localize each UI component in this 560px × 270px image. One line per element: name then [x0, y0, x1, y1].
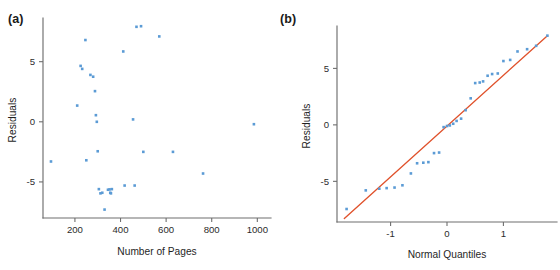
data-point	[401, 184, 404, 187]
data-point	[132, 118, 135, 121]
data-point	[449, 124, 452, 127]
data-point	[84, 39, 87, 42]
data-point	[433, 152, 436, 155]
data-point	[123, 184, 126, 187]
data-point	[378, 187, 381, 190]
data-point	[133, 184, 136, 187]
y-tick-label: 0	[30, 116, 35, 127]
data-point	[50, 160, 53, 163]
y-tick-label: 5	[324, 63, 329, 74]
panel-a: (a) 2004006008001000-505Number of PagesR…	[0, 0, 280, 270]
data-point	[478, 81, 481, 84]
data-point	[442, 126, 445, 129]
x-tick-label: 1	[501, 228, 506, 239]
data-point	[535, 45, 538, 48]
data-point	[469, 97, 472, 100]
data-point	[140, 25, 143, 28]
data-point	[491, 73, 494, 76]
figure-container: (a) 2004006008001000-505Number of PagesR…	[0, 0, 560, 270]
panel-b: (b) -101-505Normal QuantilesResiduals	[280, 0, 560, 270]
data-point	[122, 50, 125, 53]
data-point	[509, 59, 512, 62]
x-tick-label: 600	[158, 224, 174, 235]
data-point	[76, 104, 79, 107]
data-point	[96, 121, 99, 124]
panel-a-label: (a)	[8, 12, 24, 26]
x-tick-label: 0	[444, 228, 449, 239]
data-point	[385, 187, 388, 190]
panel-b-label: (b)	[280, 12, 296, 26]
x-axis-title: Number of Pages	[117, 246, 196, 257]
data-point	[438, 151, 441, 154]
y-tick-label: -5	[320, 176, 329, 187]
x-tick-label: 800	[204, 224, 220, 235]
data-point	[496, 72, 499, 75]
y-tick-label: 5	[30, 56, 35, 67]
data-point	[345, 208, 348, 211]
data-point	[103, 208, 106, 211]
data-point	[135, 26, 138, 29]
data-point	[108, 188, 111, 191]
y-tick-label: -5	[26, 176, 35, 187]
scatter-plot-a: 2004006008001000-505Number of PagesResid…	[0, 0, 280, 270]
data-point	[95, 114, 98, 117]
data-point	[81, 68, 84, 71]
data-point	[92, 75, 95, 78]
data-point	[158, 35, 161, 38]
x-axis-title: Normal Quantiles	[408, 249, 487, 260]
data-point	[455, 120, 458, 123]
data-point	[89, 74, 92, 77]
data-point	[502, 60, 505, 63]
data-point	[111, 188, 114, 191]
y-axis-title: Residuals	[7, 98, 18, 143]
data-point	[142, 151, 145, 154]
data-point	[98, 188, 101, 191]
data-point	[526, 48, 529, 51]
data-point	[516, 50, 519, 53]
data-point	[474, 82, 477, 85]
data-point	[364, 189, 367, 192]
data-point	[486, 74, 489, 77]
x-tick-label: 200	[67, 224, 83, 235]
data-point	[416, 162, 419, 165]
y-tick-label: 0	[324, 119, 329, 130]
data-point	[460, 117, 463, 120]
data-point	[110, 192, 113, 195]
y-axis-title: Residuals	[301, 104, 312, 149]
data-point	[85, 159, 88, 162]
data-point	[452, 122, 455, 125]
data-point	[253, 123, 256, 126]
x-tick-label: 400	[113, 224, 129, 235]
data-point	[94, 90, 97, 93]
data-point	[202, 172, 205, 175]
data-point	[410, 172, 413, 175]
data-point	[464, 109, 467, 112]
x-tick-label: 1000	[247, 224, 268, 235]
data-point	[446, 125, 449, 128]
data-point	[546, 34, 549, 37]
data-point	[482, 80, 485, 83]
data-point	[427, 161, 430, 164]
scatter-plot-b: -101-505Normal QuantilesResiduals	[280, 0, 560, 270]
data-point	[79, 65, 82, 68]
data-point	[422, 161, 425, 164]
x-tick-label: -1	[386, 228, 395, 239]
data-point	[101, 191, 104, 194]
data-point	[393, 186, 396, 189]
data-point	[172, 151, 175, 154]
data-point	[96, 150, 99, 153]
